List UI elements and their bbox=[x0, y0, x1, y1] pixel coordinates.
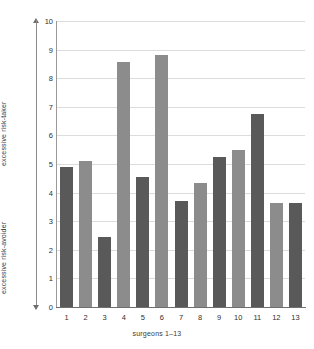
x-tick-label: 11 bbox=[247, 313, 267, 322]
bar bbox=[136, 177, 149, 307]
y-tick-label: 3 bbox=[40, 217, 53, 226]
x-axis-line bbox=[56, 307, 306, 308]
gridline bbox=[57, 21, 305, 22]
gridline bbox=[57, 135, 305, 136]
bar bbox=[60, 167, 73, 307]
x-tick-label: 1 bbox=[57, 313, 77, 322]
arrow-head-down-icon bbox=[33, 305, 39, 310]
bar bbox=[251, 114, 264, 307]
x-tick-label: 5 bbox=[133, 313, 153, 322]
bar bbox=[175, 201, 188, 307]
x-tick-label: 12 bbox=[266, 313, 286, 322]
bar bbox=[98, 237, 111, 307]
y-tick-label: 2 bbox=[40, 245, 53, 254]
x-tick-label: 13 bbox=[285, 313, 305, 322]
x-axis-title: surgeons 1–13 bbox=[0, 330, 314, 337]
y-axis-label-bottom-text: excessive risk-avoider bbox=[0, 222, 7, 294]
bar bbox=[79, 161, 92, 307]
y-tick-label: 8 bbox=[40, 74, 53, 83]
gridline bbox=[57, 50, 305, 51]
y-tick-label: 6 bbox=[40, 131, 53, 140]
x-tick-label: 6 bbox=[152, 313, 172, 322]
bar bbox=[194, 183, 207, 307]
y-tick-label: 5 bbox=[40, 160, 53, 169]
bar bbox=[289, 203, 302, 307]
x-tick-label: 7 bbox=[171, 313, 191, 322]
gridline bbox=[57, 164, 305, 165]
x-tick-label: 10 bbox=[228, 313, 248, 322]
y-tick-label: 0 bbox=[40, 303, 53, 312]
x-tick-label: 8 bbox=[190, 313, 210, 322]
x-tick-label: 9 bbox=[209, 313, 229, 322]
arrow-shaft bbox=[36, 20, 37, 308]
x-tick-label: 2 bbox=[76, 313, 96, 322]
y-tick-label: 10 bbox=[40, 17, 53, 26]
x-tick-label: 4 bbox=[114, 313, 134, 322]
gridline bbox=[57, 193, 305, 194]
bar bbox=[213, 157, 226, 307]
bar bbox=[270, 203, 283, 307]
y-tick-label: 1 bbox=[40, 274, 53, 283]
bar bbox=[155, 55, 168, 307]
y-tick-label: 9 bbox=[40, 45, 53, 54]
bar-chart: excessive risk-taker excessive risk-avoi… bbox=[0, 0, 314, 349]
y-tick-label: 4 bbox=[40, 188, 53, 197]
x-tick-label: 3 bbox=[95, 313, 115, 322]
gridline bbox=[57, 78, 305, 79]
plot-area bbox=[57, 21, 305, 307]
bar bbox=[117, 62, 130, 307]
bar bbox=[232, 150, 245, 307]
gridline bbox=[57, 107, 305, 108]
y-axis-label-bottom: excessive risk-avoider bbox=[0, 144, 7, 300]
y-tick-label: 7 bbox=[40, 102, 53, 111]
